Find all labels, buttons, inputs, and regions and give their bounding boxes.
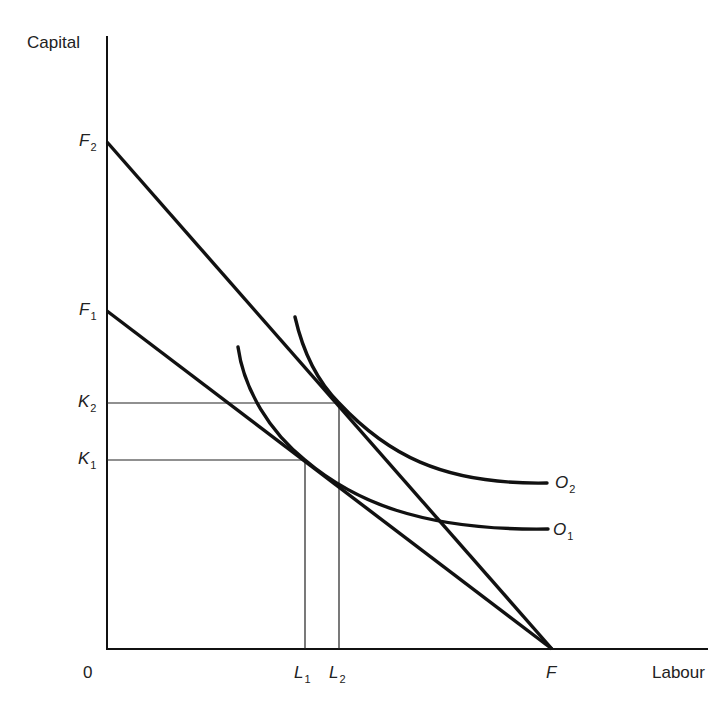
label-l1: L1 [294, 664, 311, 681]
label-f: F [546, 664, 556, 681]
label-k1: K1 [78, 450, 96, 467]
isocost-line-f2-f [107, 142, 552, 649]
label-o1: O1 [553, 521, 573, 538]
y-axis-label: Capital [27, 34, 80, 51]
label-k2: K2 [78, 393, 96, 410]
label-f1: F1 [79, 301, 97, 318]
guide-k2-l2 [107, 403, 339, 649]
label-f2: F2 [79, 132, 97, 149]
label-l2: L2 [329, 664, 346, 681]
isoquant-o1 [238, 347, 548, 529]
x-axis-label: Labour [652, 664, 705, 681]
origin-label: 0 [83, 664, 92, 681]
label-o2: O2 [555, 474, 575, 491]
guide-k1-l1 [107, 460, 305, 649]
diagram-canvas [0, 0, 725, 720]
